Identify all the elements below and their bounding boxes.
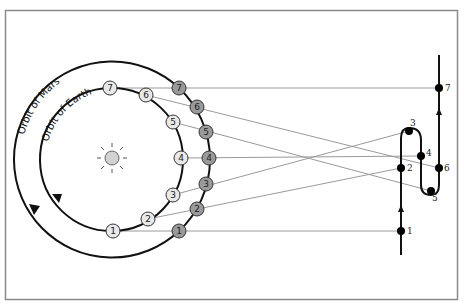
mars-6-label: 6 <box>190 100 204 114</box>
mars-5-label: 5 <box>199 125 213 139</box>
apparent-6-label: 6 <box>444 164 450 173</box>
earth-4-label: 4 <box>174 151 188 165</box>
path-arrow-icon <box>436 108 442 115</box>
mars-2-label: 2 <box>190 202 204 216</box>
retrograde-diagram: Orbit of Mars Orbit of Earth 1 2 3 4 5 6… <box>0 0 464 304</box>
frame-border <box>6 11 458 300</box>
apparent-4-label: 4 <box>426 149 432 158</box>
earth-3-label: 3 <box>166 188 180 202</box>
earth-1-label: 1 <box>106 224 120 238</box>
mars-7-label: 7 <box>172 81 186 95</box>
mars-4-label: 4 <box>202 151 216 165</box>
sun-icon <box>97 143 127 173</box>
mars-3-label: 3 <box>199 177 213 191</box>
earth-orbit-segment <box>110 88 183 231</box>
earth-7-label: 7 <box>103 81 117 95</box>
earth-orbit <box>40 88 113 231</box>
path-arrow-icon <box>398 205 404 212</box>
apparent-7-label: 7 <box>445 84 451 93</box>
sight-lines <box>110 88 439 231</box>
apparent-5-label: 5 <box>432 194 438 203</box>
earth-6-label: 6 <box>139 88 153 102</box>
apparent-1-label: 1 <box>407 227 413 236</box>
diagram-canvas: Orbit of Mars Orbit of Earth <box>0 0 464 304</box>
apparent-2-label: 2 <box>407 164 413 173</box>
apparent-3-label: 3 <box>410 119 416 128</box>
earth-5-label: 5 <box>166 115 180 129</box>
mars-1-label: 1 <box>172 224 186 238</box>
earth-2-label: 2 <box>141 212 155 226</box>
